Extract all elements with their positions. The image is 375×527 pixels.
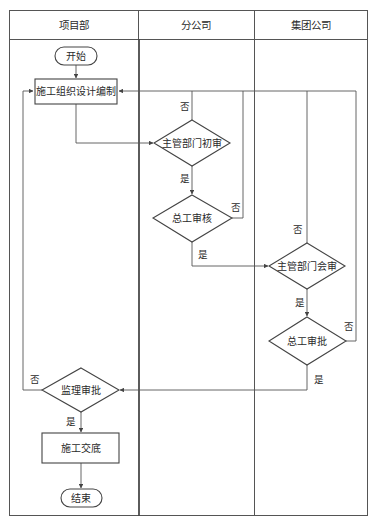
label-initial-review-no: 否 bbox=[180, 101, 190, 112]
label-chief-approval-yes: 是 bbox=[314, 374, 324, 385]
label-supervisor-no: 否 bbox=[30, 374, 40, 385]
node-draft: 施工组织设计编制 bbox=[35, 79, 117, 104]
node-chief-eng-review: 总工审核 bbox=[153, 195, 232, 242]
node-chief-eng-review-label: 总工审核 bbox=[172, 212, 212, 224]
node-dept-joint-review: 主管部门会审 bbox=[269, 243, 345, 289]
node-end: 结束 bbox=[61, 489, 102, 507]
label-chief-approval-no: 否 bbox=[344, 321, 354, 332]
edge-draft-initial-review bbox=[76, 104, 153, 143]
label-chief-review-no: 否 bbox=[231, 202, 241, 213]
lane-header-group: 集团公司 bbox=[291, 19, 331, 31]
label-chief-review-yes: 是 bbox=[198, 249, 208, 260]
flowchart-canvas: 项目部 分公司 集团公司 开始 bbox=[0, 0, 375, 527]
node-handover: 施工交底 bbox=[42, 433, 119, 463]
label-joint-review-no: 否 bbox=[293, 224, 303, 235]
node-dept-initial-review-label: 主管部门初审 bbox=[162, 137, 222, 149]
node-supervisor-approval: 监理审批 bbox=[42, 368, 119, 412]
edge-chief-approval-no bbox=[346, 91, 356, 341]
label-initial-review-yes: 是 bbox=[180, 173, 190, 184]
edge-chief-review-no bbox=[232, 91, 243, 218]
node-chief-eng-approval-label: 总工审批 bbox=[287, 335, 327, 347]
label-joint-review-yes: 是 bbox=[295, 297, 305, 308]
node-draft-label: 施工组织设计编制 bbox=[36, 85, 116, 97]
node-handover-label: 施工交底 bbox=[61, 442, 101, 454]
node-end-label: 结束 bbox=[71, 492, 91, 504]
node-start: 开始 bbox=[55, 47, 97, 65]
node-start-label: 开始 bbox=[66, 50, 86, 62]
lane-header-project: 项目部 bbox=[59, 19, 89, 31]
label-supervisor-yes: 是 bbox=[66, 416, 76, 427]
node-supervisor-approval-label: 监理审批 bbox=[61, 384, 101, 396]
node-dept-joint-review-label: 主管部门会审 bbox=[277, 260, 337, 272]
edge-supervisor-no bbox=[23, 91, 42, 390]
node-dept-initial-review: 主管部门初审 bbox=[154, 120, 230, 166]
lane-headers: 项目部 分公司 集团公司 bbox=[59, 19, 331, 31]
node-chief-eng-approval: 总工审批 bbox=[269, 317, 346, 365]
lane-header-branch: 分公司 bbox=[181, 19, 211, 31]
edge-chief-approval-yes bbox=[120, 365, 307, 390]
